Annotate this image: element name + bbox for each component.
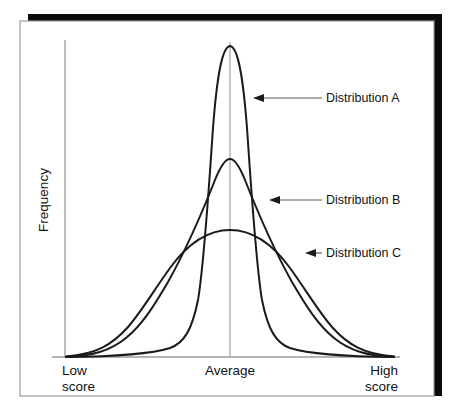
figure-frame xyxy=(20,21,434,396)
distribution-chart: Distribution A Distribution B Distributi… xyxy=(0,0,457,416)
shadow-right-bar xyxy=(434,14,442,396)
x-label-low-line1: Low xyxy=(62,363,87,378)
x-label-high-line1: High xyxy=(370,363,398,378)
y-axis-label: Frequency xyxy=(36,168,51,232)
figure-container: Distribution A Distribution B Distributi… xyxy=(0,0,457,416)
x-label-high-line2: score xyxy=(365,379,398,394)
x-label-average: Average xyxy=(205,363,255,378)
annotation-label-c: Distribution C xyxy=(326,246,401,260)
annotation-label-a: Distribution A xyxy=(326,91,400,105)
x-label-low-line2: score xyxy=(62,379,95,394)
annotation-label-b: Distribution B xyxy=(326,193,400,207)
